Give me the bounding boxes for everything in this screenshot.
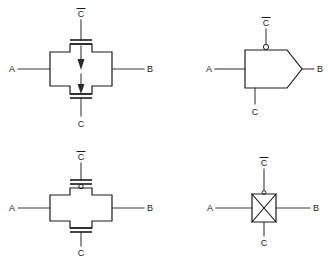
diagram-bottom-left[interactable]: C A B C <box>9 152 153 259</box>
label-terminal-a-bottom-right: A <box>207 203 213 213</box>
arrow-head-down-lower-icon <box>78 84 85 94</box>
bowtie-triangle-upper <box>252 194 276 208</box>
label-c-top-right: C <box>252 107 259 117</box>
bowtie-triangle-lower <box>252 208 276 222</box>
label-c-bottom-right: C <box>261 238 268 248</box>
diagram-top-left[interactable]: C A B C <box>9 9 153 130</box>
label-c-bottom-left: C <box>78 248 85 258</box>
device-body-cross-bottom-left <box>50 188 112 228</box>
inversion-bubble-icon-top-right <box>263 44 268 49</box>
label-terminal-a-bottom-left: A <box>9 203 15 213</box>
label-terminal-b-bottom-right: B <box>313 203 319 213</box>
label-c-bar-top-left: C <box>78 9 85 19</box>
arrow-head-down-upper-icon <box>78 59 85 70</box>
label-terminal-a-top-right: A <box>206 64 212 74</box>
diagram-top-right[interactable]: C A B C <box>206 18 323 118</box>
diagram-bottom-right[interactable]: C A B C <box>207 158 319 249</box>
schematic-canvas: C A B C C <box>0 0 328 260</box>
label-c-bottom-left-upper: C <box>78 119 85 129</box>
device-body-pentagon <box>245 50 302 88</box>
label-c-bar-bottom-left: C <box>78 152 85 162</box>
label-terminal-a-top-left: A <box>9 64 15 74</box>
label-c-bar-top-right: C <box>263 18 270 28</box>
label-c-bar-bottom-right: C <box>261 158 268 168</box>
label-terminal-b-top-right: B <box>317 64 323 74</box>
label-terminal-b-bottom-left: B <box>147 203 153 213</box>
label-terminal-b-top-left: B <box>147 64 153 74</box>
